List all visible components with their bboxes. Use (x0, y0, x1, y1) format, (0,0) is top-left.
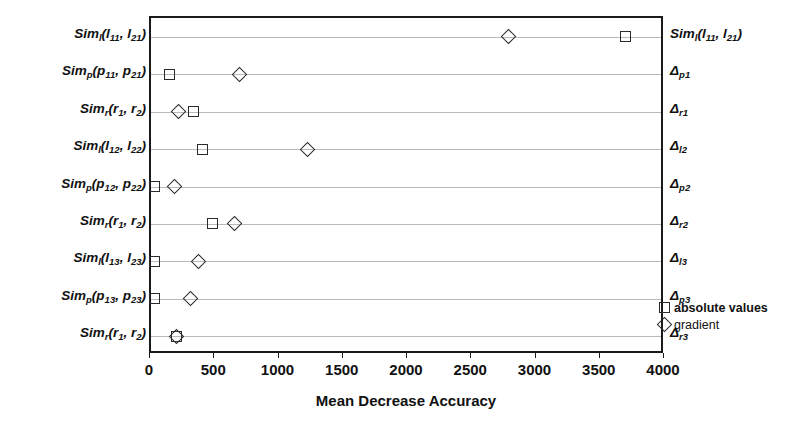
data-point-square (197, 144, 208, 155)
y-axis-right-labels: Siml(l11, l21)Δp1Δr1Δl2Δp2Δr2Δl3Δp3Δr3 (670, 16, 795, 353)
x-axis-tick (663, 353, 664, 358)
gridline (151, 187, 661, 188)
y-axis-left-label: Simp(p13, p23) (61, 289, 146, 304)
data-point-diamond (171, 104, 187, 120)
data-point-square (188, 106, 199, 117)
y-axis-right-label: Δr2 (670, 214, 688, 229)
x-axis-tick-label: 0 (145, 361, 153, 378)
data-point-square (164, 69, 175, 80)
x-axis-tick-label: 2500 (454, 361, 487, 378)
x-axis-tick (342, 353, 343, 358)
gridline (151, 261, 661, 262)
data-point-diamond (300, 141, 316, 157)
x-axis-tick (278, 353, 279, 358)
x-axis-tick (470, 353, 471, 358)
y-axis-left-label: Simp(p12, p22) (61, 177, 146, 192)
y-axis-right-label: Δp1 (670, 64, 690, 79)
x-axis-tick-labels: 05001000150020002500300035004000 (149, 361, 663, 381)
y-axis-left-label: Siml(l11, l21) (74, 27, 146, 42)
gridline (151, 336, 661, 337)
data-point-diamond (500, 29, 516, 45)
data-point-diamond (183, 291, 199, 307)
y-axis-left-label: Simr(r1, r2) (80, 102, 146, 117)
y-axis-left-labels: Siml(l11, l21)Simp(p11, p21)Simr(r1, r2)… (0, 16, 146, 353)
gridline (151, 112, 661, 113)
x-axis-tick-label: 1000 (261, 361, 294, 378)
x-axis-tick-label: 1500 (325, 361, 358, 378)
y-axis-right-label: Δp2 (670, 177, 690, 192)
x-axis-tick-label: 500 (201, 361, 226, 378)
data-point-square (149, 181, 160, 192)
gridline (151, 149, 661, 150)
data-point-square (620, 31, 631, 42)
square-marker-icon (657, 301, 671, 315)
gridline (151, 299, 661, 300)
y-axis-left-label: Siml(l12, l22) (73, 139, 146, 154)
x-axis-ticks (149, 353, 663, 359)
x-axis-tick (149, 353, 150, 358)
x-axis-tick-label: 3500 (582, 361, 615, 378)
data-point-square (207, 218, 218, 229)
x-axis-tick-label: 2000 (389, 361, 422, 378)
data-point-square (149, 293, 160, 304)
chart-figure: Siml(l11, l21)Simp(p11, p21)Simr(r1, r2)… (0, 0, 795, 433)
y-axis-right-label: Δr3 (670, 326, 688, 341)
y-axis-right-label: Δl3 (670, 251, 687, 266)
x-axis-tick (535, 353, 536, 358)
x-axis-tick (599, 353, 600, 358)
x-axis-tick (213, 353, 214, 358)
y-axis-right-label: Δp3 (670, 289, 690, 304)
data-point-square (149, 256, 160, 267)
data-point-diamond (191, 254, 207, 270)
y-axis-left-label: Simr(r1, r2) (80, 326, 146, 341)
y-axis-left-label: Simp(p11, p21) (62, 64, 146, 79)
gridline (151, 74, 661, 75)
y-axis-right-label: Siml(l11, l21) (670, 27, 742, 42)
plot-area: absolute values gradient (149, 16, 663, 353)
x-axis-tick (406, 353, 407, 358)
y-axis-right-label: Δl2 (670, 139, 687, 154)
y-axis-left-label: Simr(r1, r2) (80, 214, 146, 229)
x-axis-title: Mean Decrease Accuracy (149, 392, 663, 409)
data-point-diamond (227, 216, 243, 232)
gridline (151, 37, 661, 38)
data-point-diamond (167, 179, 183, 195)
x-axis-tick-label: 4000 (646, 361, 679, 378)
y-axis-left-label: Siml(l13, l23) (73, 251, 146, 266)
diamond-marker-icon (657, 318, 671, 332)
y-axis-right-label: Δr1 (670, 102, 688, 117)
data-point-diamond (232, 66, 248, 82)
x-axis-tick-label: 3000 (518, 361, 551, 378)
